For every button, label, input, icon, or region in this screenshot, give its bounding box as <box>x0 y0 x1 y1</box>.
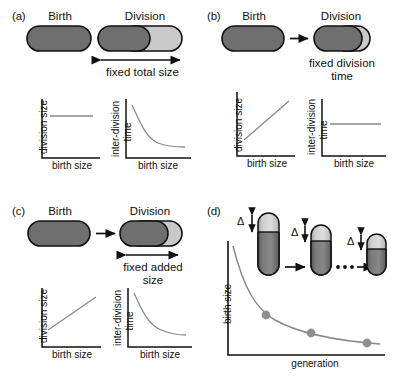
panel-a-division-cell <box>98 26 182 51</box>
panel-a-chart-division-size-axes <box>42 99 100 158</box>
panel-a-annotation: fixed total size <box>90 66 195 79</box>
panel-a-chart1-xlabel: birth size <box>46 160 98 171</box>
panel-b-chart-division-size-axes <box>237 92 295 156</box>
panel-d-label: (d) <box>207 205 220 217</box>
panel-d-marker-dot <box>262 311 271 320</box>
panel-b-birth-cell <box>222 26 284 51</box>
panel-b-chart1-ylabel: division size <box>233 94 244 156</box>
panel-d-ylabel: birth size <box>222 273 233 335</box>
panel-b-division-cell <box>314 26 370 51</box>
panel-c-chart2-xlabel: birth size <box>134 349 186 360</box>
panel-c-annotation-line1: fixed added <box>106 261 200 274</box>
panel-c-division-cell <box>120 221 182 246</box>
panel-b-annotation-line1: fixed division <box>296 57 388 70</box>
panel-d-chart-axes <box>228 241 385 355</box>
panel-c-chart-interdivision-time-axes <box>128 288 192 347</box>
panel-d-marker-dot <box>307 329 316 338</box>
panel-a-chart2-ylabel-line2: time <box>122 114 133 150</box>
panel-d-ellipsis <box>336 265 354 269</box>
panel-a-chart1-ylabel: division size <box>38 96 49 158</box>
panel-a-birth-cell <box>27 26 91 51</box>
panel-c-birth-cell <box>28 221 90 246</box>
panel-b-annotation-line2: time <box>296 70 388 83</box>
panel-d-birth-size-curve <box>233 246 380 344</box>
panel-c-chart1-ylabel: division size <box>38 285 49 347</box>
panel-d-xlabel: generation <box>278 358 352 369</box>
panel-d-marker-dot <box>363 339 372 348</box>
panel-a-chart2-ylabel-line1: inter-division <box>110 93 121 165</box>
panel-d-delta-symbol: Δ <box>291 226 298 238</box>
cell-size-homeostasis-figure: (a) Birth Division fixed total size birt… <box>0 0 395 377</box>
panel-c-chart1-xlabel: birth size <box>46 349 98 360</box>
panel-c-chart-division-size-axes <box>42 288 101 347</box>
panel-d-delta-symbol: Δ <box>347 235 354 247</box>
panel-b-chart-interdivision-time-axes <box>322 99 386 156</box>
panel-c-chart-interdivision-time-curve <box>134 293 186 335</box>
panel-b-label: (b) <box>207 10 220 22</box>
panel-a-label: (a) <box>12 10 25 22</box>
panel-a-chart2-xlabel: birth size <box>132 160 184 171</box>
panel-d-cell-generation-1 <box>258 213 279 275</box>
panel-b-chart2-xlabel: birth size <box>328 158 380 169</box>
panel-d-cell-generation-3 <box>367 234 386 275</box>
panel-b-chart-division-size-curve <box>244 101 289 140</box>
panel-b-chart2-ylabel-line1: inter-division <box>306 91 317 163</box>
panel-b-birth-label: Birth <box>226 10 282 22</box>
panel-a-chart-interdivision-time-axes <box>126 99 191 158</box>
panel-a-division-label: Division <box>110 10 180 22</box>
panel-c-birth-label: Birth <box>32 205 88 217</box>
panel-c-chart2-ylabel-line1: inter-division <box>112 282 123 354</box>
panel-c-chart-division-size-curve <box>48 297 96 330</box>
panel-b-chart2-ylabel-line2: time <box>318 112 329 148</box>
panel-b-chart1-xlabel: birth size <box>241 158 293 169</box>
panel-a-chart-interdivision-time-curve <box>132 105 185 147</box>
panel-d-delta-symbol: Δ <box>237 215 244 227</box>
panel-c-division-label: Division <box>115 205 185 217</box>
panel-a-birth-label: Birth <box>30 10 90 22</box>
panel-b-division-label: Division <box>308 10 374 22</box>
panel-d-cell-generation-2 <box>311 225 331 275</box>
panel-c-label: (c) <box>12 205 25 217</box>
panel-c-chart2-ylabel-line2: time <box>124 303 135 339</box>
